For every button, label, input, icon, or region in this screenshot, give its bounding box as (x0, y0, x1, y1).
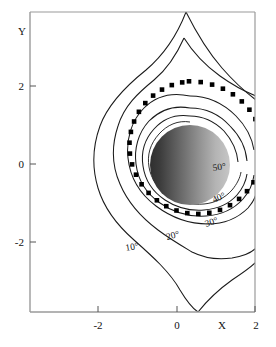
y-tick-label-2: 2 (19, 80, 25, 92)
y-tick-label-0: 0 (19, 158, 25, 170)
contour-label-50: 50° (212, 161, 227, 173)
y-axis-label: Y (18, 25, 26, 37)
x-tick-label-2: 2 (253, 319, 259, 331)
x-tick-label-0: 0 (174, 319, 180, 331)
x-tick-label-minus-2: -2 (93, 319, 102, 331)
x-axis-label: X (218, 319, 226, 331)
plot-canvas: 2 0 -2 -2 0 2 Y X 10° 20° 30° 40° 50° (0, 0, 276, 347)
contour-plot-figure: 2 0 -2 -2 0 2 Y X 10° 20° 30° 40° 50° (0, 0, 276, 347)
y-tick-label-minus-2: -2 (15, 236, 24, 248)
